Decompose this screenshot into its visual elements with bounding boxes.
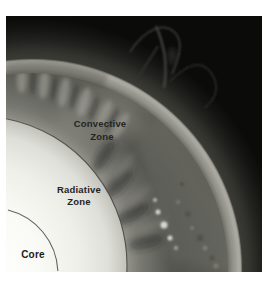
- page-background: Convective Zone Radiative Zone Core: [0, 0, 277, 282]
- radiative-zone-label-line2: Zone: [67, 196, 91, 207]
- convective-zone-label-line1: Convective: [74, 118, 127, 129]
- convective-zone-label-line2: Zone: [90, 131, 114, 142]
- sun-cutaway-graphic: Convective Zone Radiative Zone Core: [6, 16, 262, 272]
- sun-cutaway-figure: Convective Zone Radiative Zone Core: [6, 16, 262, 272]
- radiative-zone-label-line1: Radiative: [57, 184, 101, 195]
- core-label: Core: [21, 249, 45, 260]
